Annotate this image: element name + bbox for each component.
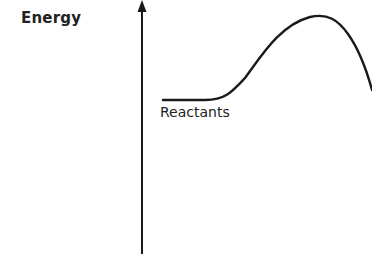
arrow-up-icon [138,0,147,12]
y-axis [138,0,147,254]
energy-curve [163,16,372,100]
energy-plot [0,0,372,254]
reactants-label: Reactants [160,104,230,120]
